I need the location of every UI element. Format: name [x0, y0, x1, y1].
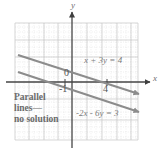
- equation-label-one: x + 3y = 4: [84, 56, 122, 65]
- x-tick-label-four: 4: [103, 84, 108, 94]
- annotation-line-2: lines—: [14, 103, 42, 114]
- coordinate-plane: [0, 0, 162, 155]
- x-tick-label-neg-one: -1: [59, 84, 67, 94]
- origin-label: 0: [64, 68, 69, 78]
- equation-label-two: -2x - 6y = 3: [76, 109, 119, 118]
- x-axis-label: x: [153, 74, 157, 83]
- graph-figure: y x 0 -1 4 x + 3y = 4 -2x - 6y = 3 Paral…: [0, 0, 162, 155]
- annotation-line-3: no solution: [14, 114, 59, 125]
- annotation-line-1: Parallel: [14, 92, 46, 103]
- axes: [6, 12, 150, 148]
- y-axis-label: y: [71, 1, 75, 10]
